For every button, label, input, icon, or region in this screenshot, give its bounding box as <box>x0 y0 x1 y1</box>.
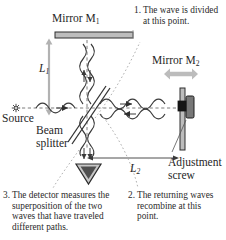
caption-3-text: The detector measures the superposition … <box>3 190 127 232</box>
beam-splitter-label: Beam splitter <box>36 124 68 149</box>
l1-dimension-arrow <box>46 39 53 116</box>
caption-2: 2. The returning waves recombine at this… <box>128 190 224 222</box>
wave-down-from-m1 <box>88 44 95 104</box>
adjustment-screw-label-line2: screw <box>168 169 222 182</box>
adjustment-screw-label: Adjustment screw <box>168 156 222 181</box>
caption-2-text: The returning waves recombine at this po… <box>128 190 224 222</box>
double-headed-arrow-icon <box>164 69 198 80</box>
wave-splitter-to-detector-2 <box>88 116 95 156</box>
beam-splitter <box>68 86 110 144</box>
caption-1-text: The wave is divided at this point. <box>134 5 224 26</box>
beam-splitter-label-line2: splitter <box>36 137 68 150</box>
caption1-leader <box>95 42 140 118</box>
caption3-leader <box>53 150 79 188</box>
figure-canvas: Mirror M1 Mirror M2 Source Beam splitter… <box>0 0 226 240</box>
mirror-m2 <box>180 88 185 150</box>
beam-splitter-label-line1: Beam <box>36 124 68 137</box>
mirror-m1 <box>55 32 133 38</box>
caption2-leader <box>101 114 138 188</box>
caption-1-number: 1. <box>134 5 141 15</box>
wave-up-to-m1 <box>80 44 87 104</box>
length-l2-label: L2 <box>130 162 140 176</box>
caption-2-number: 2. <box>128 190 135 200</box>
wave-splitter-to-detector <box>80 116 87 156</box>
length-l1-label: L1 <box>39 62 49 76</box>
wave-splitter-to-m2 <box>100 99 165 109</box>
adjustment-screw-label-line1: Adjustment <box>168 156 222 169</box>
l2-dimension-arrow <box>87 155 179 160</box>
starburst-icon <box>12 104 20 112</box>
mirror-m1-label: Mirror M1 <box>52 12 100 26</box>
mirror-m2-label: Mirror M2 <box>152 54 200 68</box>
source-label: Source <box>2 112 34 124</box>
detector <box>76 164 101 184</box>
caption-3-number: 3. <box>3 190 10 200</box>
caption-3: 3. The detector measures the superpositi… <box>3 190 127 232</box>
caption-1: 1. The wave is divided at this point. <box>134 5 224 26</box>
